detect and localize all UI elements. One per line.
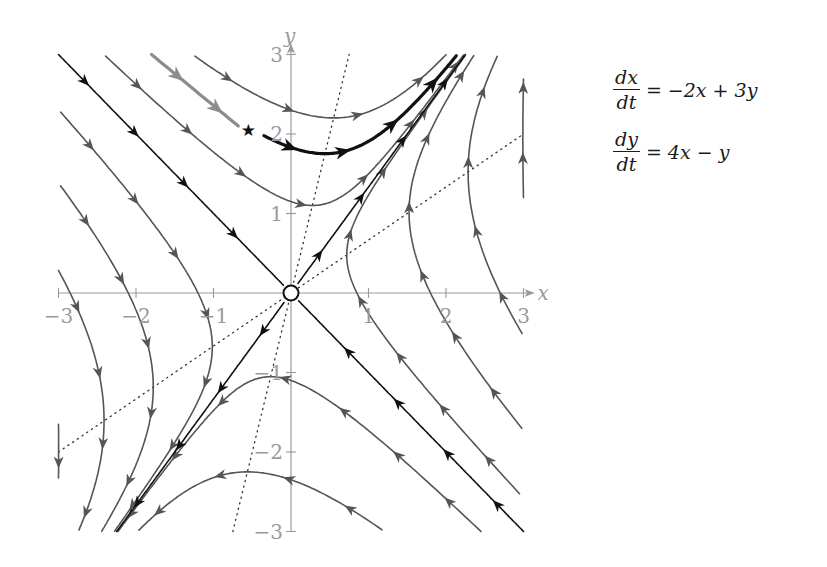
derivative-dy-dt: dy dt	[613, 128, 640, 175]
x-tick-label: −3	[44, 304, 73, 328]
equation-dx: dx dt = −2x + 3y	[613, 66, 757, 113]
unstable-manifold-lower-left	[117, 303, 284, 532]
star-marker-icon: ★	[241, 120, 256, 140]
derivative-dx-dt: dx dt	[613, 66, 640, 113]
x-tick-label: 3	[517, 304, 530, 328]
trajectory	[409, 56, 522, 429]
y-tick-label: 3	[270, 43, 283, 67]
numerator: dy	[613, 128, 640, 152]
trajectory	[468, 56, 522, 333]
y-tick-label: −2	[254, 440, 283, 464]
y-tick-label: −1	[254, 361, 283, 385]
x-tick-label: 1	[362, 304, 375, 328]
saddle-equilibrium-point	[284, 286, 299, 301]
denominator: dt	[617, 152, 637, 175]
rhs-dx: = −2x + 3y	[646, 79, 758, 101]
y-axis-label: y	[283, 24, 296, 48]
y-tick-label: 2	[270, 122, 283, 146]
trajectory	[61, 186, 154, 531]
x-tick-label: −1	[199, 304, 228, 328]
trajectory	[523, 79, 524, 198]
tick-labels: −3−2−1123321−1−2−3xy	[44, 24, 549, 544]
x-tick-label: 2	[440, 304, 453, 328]
y-tick-label: 1	[270, 202, 283, 226]
incoming-path	[152, 55, 239, 127]
x-tick-label: −2	[121, 304, 150, 328]
trajectory	[347, 56, 520, 494]
stable-manifold-upper-left	[59, 55, 284, 286]
denominator: dt	[617, 90, 637, 113]
y-tick-label: −3	[254, 520, 283, 544]
x-axis-label: x	[538, 281, 549, 305]
stable-manifold-lower-right	[299, 301, 524, 532]
unstable-manifold-upper-right	[298, 55, 465, 284]
equation-dy: dy dt = 4x − y	[613, 128, 729, 175]
rhs-dy: = 4x − y	[646, 141, 730, 163]
numerator: dx	[613, 66, 640, 90]
